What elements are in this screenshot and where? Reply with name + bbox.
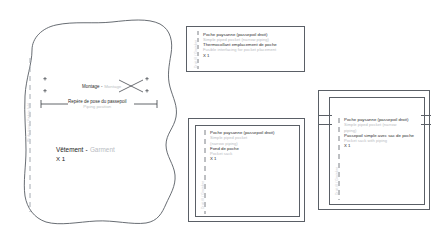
pattern-piece-piping-outer: Droit fil / Grainline Poche paysanne (pa… xyxy=(318,90,430,210)
montage-label: Montage - Montage xyxy=(82,84,121,89)
piping-text-block: Poche paysanne (passepoil droit) Simple … xyxy=(344,117,414,149)
piping-quantity: X 1 xyxy=(344,143,414,149)
fold-line-dashed xyxy=(8,14,186,232)
interfacing-line2-en: Fusible interfacing for pocket placement xyxy=(203,47,277,52)
notch-tick-right-upper xyxy=(421,115,431,116)
pattern-piece-interfacing: Droit fil / Grainline Poche paysanne (pa… xyxy=(186,26,305,72)
montage-label-dash: - xyxy=(101,84,103,89)
garment-main-piece: Montage - Montage Repère de pose du pass… xyxy=(8,14,186,232)
piping-position-label-en: Piping position xyxy=(68,104,127,109)
interfacing-text-block: Poche paysanne (passepoil droit) Simple … xyxy=(203,32,277,59)
piping-position-label-fr: Repère de pose du passepoil xyxy=(68,99,127,104)
fold-line-label: Pli du tissu / Fabric fold xyxy=(27,103,31,142)
piping-position-label: Repère de pose du passepoil Piping posit… xyxy=(68,99,127,109)
montage-label-fr: Montage xyxy=(82,84,100,89)
pattern-sheet: Montage - Montage Repère de pose du pass… xyxy=(0,0,437,238)
garment-title-row: Vêtement - Garment xyxy=(56,146,115,154)
garment-title-block: Vêtement - Garment X 1 xyxy=(56,146,115,163)
notch-tick-left-lower xyxy=(319,124,332,125)
garment-title-en: Garment xyxy=(90,146,115,154)
grainline-label-2: Droit fil / Grainline xyxy=(201,181,205,209)
pocket-bag-text-block: Poche paysanne (passepoil droit) Simple … xyxy=(210,130,274,162)
pocket-bag-quantity: X 1 xyxy=(210,156,274,162)
garment-title-dash: - xyxy=(86,146,88,154)
notch-tick-right-lower xyxy=(421,124,431,125)
grainline-label-3: Droit fil / Grainline xyxy=(335,167,339,195)
grainline-label-1: Droit fil / Grainline xyxy=(194,40,198,68)
garment-quantity: X 1 xyxy=(56,155,115,163)
garment-title-fr: Vêtement xyxy=(56,146,83,154)
montage-label-en: Montage xyxy=(104,84,121,89)
notch-tick-left-upper xyxy=(319,115,332,116)
pattern-piece-piping-inner xyxy=(329,97,425,205)
interfacing-quantity: X 1 xyxy=(203,53,277,59)
pattern-piece-pocket-bag-outer: Droit fil / Grainline Poche paysanne (pa… xyxy=(188,118,305,222)
